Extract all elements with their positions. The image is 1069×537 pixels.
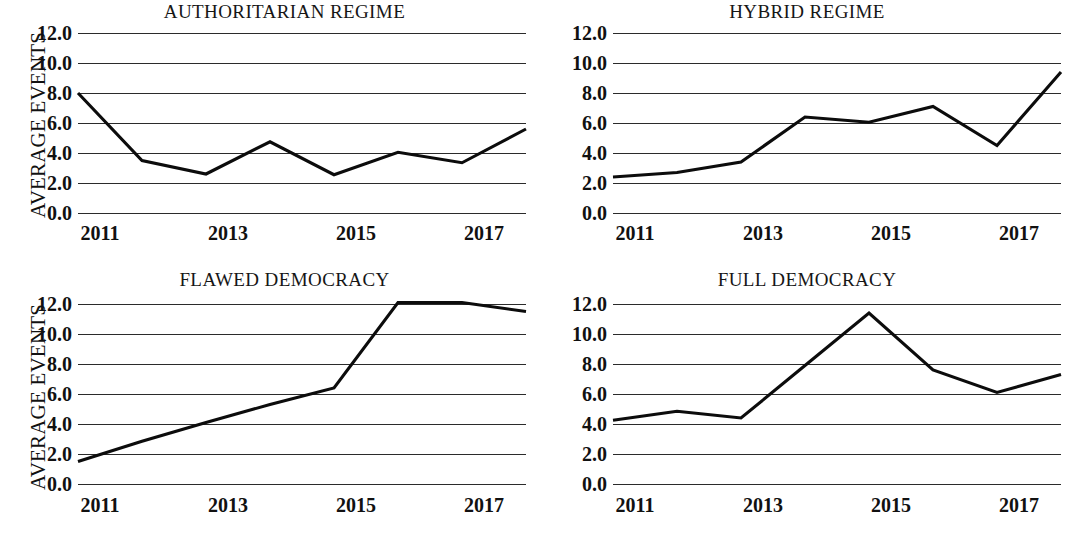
y-tick-label: 4.0 (16, 414, 72, 434)
y-tick-label: 12.0 (16, 294, 72, 314)
x-tick-label: 2011 (81, 222, 120, 245)
y-tick-label: 6.0 (16, 113, 72, 133)
chart-panel-authoritarian-regime: AUTHORITARIAN REGIME AVERAGE EVENTS 0.02… (0, 0, 535, 268)
y-tick-label: 0.0 (551, 203, 607, 223)
y-tick-label: 0.0 (16, 203, 72, 223)
chart-svg (78, 304, 526, 484)
data-series-line (613, 313, 1061, 420)
x-tick-label: 2017 (999, 222, 1039, 245)
y-tick-label: 2.0 (551, 444, 607, 464)
chart-panel-hybrid-regime: HYBRID REGIME 0.02.04.06.08.010.012.0 20… (535, 0, 1069, 268)
x-tick-label: 2015 (336, 222, 376, 245)
x-tick-label: 2017 (464, 494, 504, 517)
x-tick-label: 2011 (81, 494, 120, 517)
y-tick-label: 10.0 (551, 324, 607, 344)
data-series-line (613, 72, 1061, 177)
y-tick-label: 8.0 (551, 83, 607, 103)
x-tick-label: 2015 (871, 222, 911, 245)
y-tick-label: 10.0 (551, 53, 607, 73)
y-tick-label: 12.0 (551, 23, 607, 43)
data-series-line (78, 93, 526, 175)
x-tick-label: 2017 (464, 222, 504, 245)
chart-svg (613, 304, 1061, 484)
data-series-line (78, 303, 526, 462)
y-tick-label: 12.0 (16, 23, 72, 43)
plot-area-flawed-democracy (78, 304, 526, 484)
y-tick-label: 6.0 (16, 384, 72, 404)
y-tick-label: 6.0 (551, 113, 607, 133)
y-tick-label: 0.0 (16, 474, 72, 494)
chart-panel-full-democracy: FULL DEMOCRACY 0.02.04.06.08.010.012.0 2… (535, 268, 1069, 537)
chart-panel-flawed-democracy: FLAWED DEMOCRACY AVERAGE EVENTS 0.02.04.… (0, 268, 535, 537)
x-tick-label: 2013 (208, 222, 248, 245)
x-tick-label: 2011 (616, 494, 655, 517)
chart-svg (78, 33, 526, 213)
y-tick-labels-flawed-democracy: 0.02.04.06.08.010.012.0 (10, 268, 72, 537)
y-tick-label: 12.0 (551, 294, 607, 314)
y-tick-label: 6.0 (551, 384, 607, 404)
figure-grid: AUTHORITARIAN REGIME AVERAGE EVENTS 0.02… (0, 0, 1069, 537)
y-tick-label: 4.0 (551, 414, 607, 434)
y-tick-labels-authoritarian-regime: 0.02.04.06.08.010.012.0 (10, 0, 72, 268)
x-tick-label: 2015 (336, 494, 376, 517)
y-tick-label: 10.0 (16, 53, 72, 73)
plot-area-full-democracy (613, 304, 1061, 484)
plot-area-hybrid-regime (613, 33, 1061, 213)
plot-area-authoritarian-regime (78, 33, 526, 213)
y-tick-label: 10.0 (16, 324, 72, 344)
y-tick-label: 2.0 (551, 173, 607, 193)
x-tick-label: 2017 (999, 494, 1039, 517)
y-tick-labels-full-democracy: 0.02.04.06.08.010.012.0 (545, 268, 607, 537)
y-tick-label: 2.0 (16, 173, 72, 193)
x-tick-label: 2011 (616, 222, 655, 245)
y-tick-label: 4.0 (16, 143, 72, 163)
x-tick-label: 2013 (743, 494, 783, 517)
y-tick-label: 8.0 (16, 83, 72, 103)
y-tick-label: 8.0 (16, 354, 72, 374)
y-tick-labels-hybrid-regime: 0.02.04.06.08.010.012.0 (545, 0, 607, 268)
y-tick-label: 2.0 (16, 444, 72, 464)
chart-title-full-democracy: FULL DEMOCRACY (535, 269, 1069, 291)
x-tick-label: 2013 (208, 494, 248, 517)
y-tick-label: 8.0 (551, 354, 607, 374)
chart-title-flawed-democracy: FLAWED DEMOCRACY (0, 269, 535, 291)
chart-svg (613, 33, 1061, 213)
y-tick-label: 0.0 (551, 474, 607, 494)
x-tick-label: 2015 (871, 494, 911, 517)
chart-title-authoritarian-regime: AUTHORITARIAN REGIME (0, 1, 535, 23)
y-tick-label: 4.0 (551, 143, 607, 163)
x-tick-label: 2013 (743, 222, 783, 245)
chart-title-hybrid-regime: HYBRID REGIME (535, 1, 1069, 23)
